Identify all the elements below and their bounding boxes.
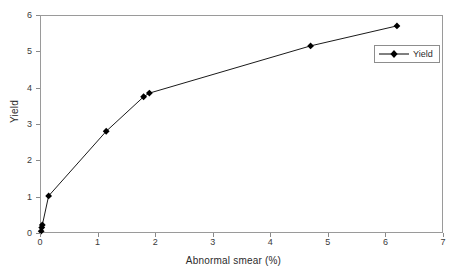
y-tick-label: 6 [10,11,32,20]
x-tick-label: 3 [210,238,215,247]
y-tick-mark [36,160,40,161]
y-tick-label: 5 [10,47,32,56]
series-yield [38,23,401,235]
chart-figure: 01234567 0123456 Abnormal smear (%) Yiel… [0,0,467,276]
data-point-marker [394,23,401,30]
x-tick-label: 0 [37,238,42,247]
y-tick-mark [36,51,40,52]
x-tick-label: 6 [383,238,388,247]
data-point-marker [146,90,153,97]
y-tick-label: 2 [10,156,32,165]
chart-legend: Yield [374,45,440,63]
legend-label: Yield [413,50,433,59]
x-tick-label: 2 [153,238,158,247]
y-axis-title: Yield [9,82,20,142]
x-tick-label: 5 [325,238,330,247]
y-tick-label: 1 [10,192,32,201]
x-tick-label: 4 [268,238,273,247]
legend-marker-icon [379,49,409,59]
y-tick-label: 0 [10,229,32,238]
y-tick-mark [36,233,40,234]
series-line [41,26,397,231]
x-tick-label: 1 [95,238,100,247]
data-point-marker [307,42,314,49]
y-tick-mark [36,15,40,16]
x-tick-label: 7 [440,238,445,247]
y-tick-mark [36,197,40,198]
y-tick-mark [36,124,40,125]
y-tick-mark [36,88,40,89]
x-axis-title: Abnormal smear (%) [0,255,467,266]
